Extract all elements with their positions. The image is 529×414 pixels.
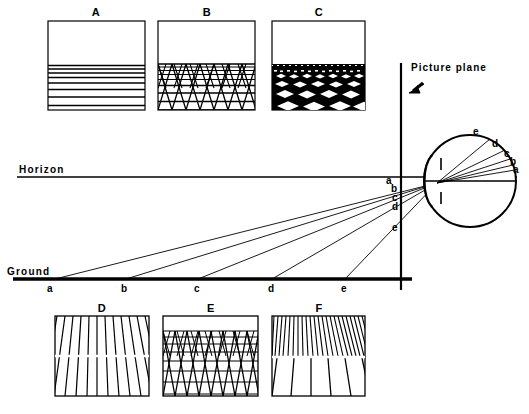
- ground-point-e: e: [341, 283, 347, 294]
- panel-c-texture: [272, 64, 375, 111]
- figure-canvas: A B C D E F Picture plane Horizon Ground…: [0, 0, 529, 414]
- picture-plane-point-e: e: [392, 222, 398, 233]
- panel-label-d: D: [82, 302, 122, 314]
- projection-rays: [55, 183, 437, 279]
- ground-point-c: c: [194, 283, 200, 294]
- ground-point-d: d: [268, 283, 274, 294]
- ground-point-a: a: [47, 283, 53, 294]
- panel-label-c: C: [299, 6, 339, 18]
- panel-label-a: A: [76, 6, 116, 18]
- horizon-label: Horizon: [19, 164, 65, 175]
- panel-label-e: E: [191, 302, 231, 314]
- ground-point-b: b: [121, 283, 127, 294]
- panel-label-b: B: [187, 6, 227, 18]
- picture-plane-point-d: d: [392, 201, 398, 212]
- retinal-point-a: a: [513, 164, 519, 175]
- retinal-point-e: e: [473, 126, 479, 137]
- ground-label: Ground: [7, 266, 50, 277]
- picture-plane-label: Picture plane: [411, 62, 487, 73]
- retinal-point-d: d: [492, 138, 498, 149]
- panel-label-f: F: [299, 302, 339, 314]
- retinal-point-c: c: [504, 148, 510, 159]
